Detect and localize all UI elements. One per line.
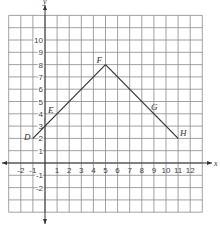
x-tick-label: 5: [103, 166, 108, 175]
y-tick-label: 2: [39, 134, 44, 143]
y-tick-label: 6: [39, 85, 44, 94]
y-tick-label: 5: [39, 98, 44, 107]
point-label-h: H: [179, 128, 187, 138]
y-tick-label: 4: [39, 110, 44, 119]
point-labels: DEFGH: [23, 55, 187, 143]
point-label-f: F: [96, 55, 103, 65]
y-axis-label: y: [42, 0, 47, 6]
x-tick-label: 12: [186, 166, 195, 175]
x-tick-label: 9: [152, 166, 157, 175]
coordinate-grid: xy -2-1123456789101112-2-112345678910 DE…: [0, 0, 220, 228]
x-tick-label: 4: [91, 166, 96, 175]
point-label-g: G: [151, 102, 158, 112]
axes: xy: [2, 0, 218, 224]
x-tick-label: 11: [174, 166, 183, 175]
y-tick-label: -1: [36, 171, 44, 180]
x-axis-right-arrow-icon: [207, 161, 212, 165]
point-label-e: E: [47, 105, 54, 115]
y-tick-label: 8: [39, 61, 44, 70]
x-tick-label: 8: [140, 166, 145, 175]
y-tick-label: -2: [36, 184, 44, 193]
x-axis-left-arrow-icon: [2, 161, 7, 165]
x-tick-label: 10: [162, 166, 171, 175]
y-tick-label: 1: [39, 147, 44, 156]
y-tick-label: 7: [39, 73, 44, 82]
x-tick-label: 2: [67, 166, 72, 175]
x-tick-label: 6: [115, 166, 120, 175]
x-tick-label: -2: [17, 166, 25, 175]
x-tick-label: 1: [55, 166, 60, 175]
point-label-d: D: [23, 132, 31, 142]
tick-labels: -2-1123456789101112-2-112345678910: [17, 36, 195, 193]
y-tick-label: 10: [34, 36, 43, 45]
x-tick-label: 3: [79, 166, 84, 175]
y-axis-down-arrow-icon: [43, 219, 47, 224]
y-tick-label: 9: [39, 48, 44, 57]
x-axis-label: x: [213, 159, 218, 168]
x-tick-label: 7: [127, 166, 132, 175]
